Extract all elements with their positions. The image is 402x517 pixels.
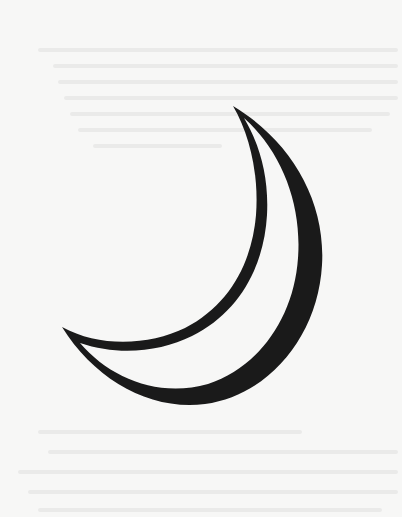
document-page [0,0,402,517]
crescent-moon-illustration [0,0,402,517]
